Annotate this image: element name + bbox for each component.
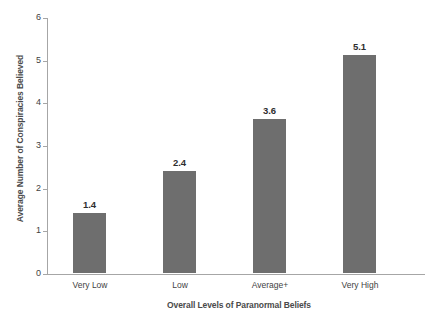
x-tick-label-low: Low	[135, 280, 225, 290]
y-tick-6: 6	[47, 18, 51, 19]
bar-very-low[interactable]	[73, 213, 106, 273]
x-axis-line	[47, 274, 425, 275]
x-axis-title: Overall Levels of Paranormal Beliefs	[45, 300, 433, 310]
y-tick-0: 0	[47, 274, 51, 275]
y-tick-mark	[43, 146, 47, 147]
y-tick-label: 5	[36, 55, 41, 65]
y-tick-mark	[43, 231, 47, 232]
y-tick-mark	[43, 18, 47, 19]
y-tick-5: 5	[47, 61, 51, 62]
bar-chart: Average Number of Conspiracies Believed …	[0, 0, 433, 323]
bar-value-label: 3.6	[241, 105, 298, 116]
bar-value-label: 5.1	[331, 41, 388, 52]
y-tick-label: 0	[36, 268, 41, 278]
bar-value-label: 1.4	[61, 199, 118, 210]
y-tick-label: 6	[36, 12, 41, 22]
y-tick-2: 2	[47, 189, 51, 190]
x-tick-label-very-high: Very High	[315, 280, 405, 290]
bar-very-high[interactable]	[343, 55, 376, 273]
y-tick-mark	[43, 103, 47, 104]
y-tick-4: 4	[47, 103, 51, 104]
x-tick-label-average-plus: Average+	[225, 280, 315, 290]
plot-area: 6 5 4 3 2 1 0 1.4	[47, 18, 425, 274]
y-tick-1: 1	[47, 231, 51, 232]
y-tick-mark	[43, 61, 47, 62]
bar-low[interactable]	[163, 171, 196, 273]
y-axis-title: Average Number of Conspiracies Believed	[10, 0, 30, 300]
y-tick-mark	[43, 189, 47, 190]
x-tick-label-very-low: Very Low	[45, 280, 135, 290]
y-tick-label: 1	[36, 225, 41, 235]
bar-average-plus[interactable]	[253, 119, 286, 273]
bar-value-label: 2.4	[151, 157, 208, 168]
y-tick-3: 3	[47, 146, 51, 147]
y-tick-label: 2	[36, 183, 41, 193]
y-tick-label: 4	[36, 97, 41, 107]
y-tick-mark	[43, 274, 47, 275]
y-tick-label: 3	[36, 140, 41, 150]
